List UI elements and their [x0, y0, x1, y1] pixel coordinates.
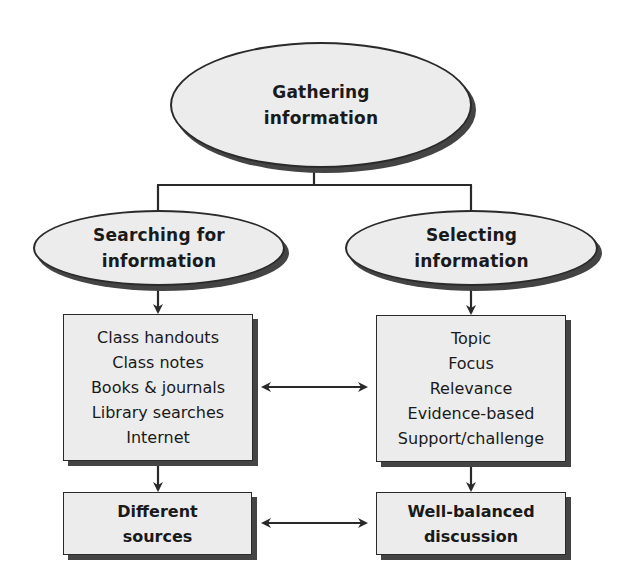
box-label-line-1: Different	[117, 499, 197, 524]
list-item: Library searches	[92, 400, 224, 425]
gathering-information-node: Gathering information	[170, 42, 472, 168]
gathering-information-diagram: Gathering information Searching for info…	[0, 0, 629, 586]
node-label-line-1: Selecting	[426, 222, 517, 248]
list-item: Books & journals	[91, 375, 225, 400]
node-label-line-1: Searching for	[93, 222, 225, 248]
list-item: Internet	[126, 425, 190, 450]
node-label-line-2: information	[414, 248, 529, 274]
different-sources-box: Different sources	[63, 492, 252, 555]
tree-connector	[157, 168, 472, 213]
list-item: Support/challenge	[398, 426, 544, 451]
list-item: Class notes	[112, 350, 204, 375]
node-label-line-2: information	[102, 248, 217, 274]
list-item: Evidence-based	[408, 401, 535, 426]
node-label-line-1: Gathering	[272, 79, 369, 105]
box-label-line-1: Well-balanced	[407, 499, 534, 524]
list-item: Topic	[451, 326, 491, 351]
list-item: Class handouts	[97, 325, 219, 350]
bidirectional-arrows	[263, 387, 366, 523]
node-label-line-2: information	[264, 105, 379, 131]
information-sources-box: Class handouts Class notes Books & journ…	[63, 314, 253, 461]
list-item: Relevance	[430, 376, 513, 401]
selecting-information-node: Selecting information	[345, 210, 598, 286]
well-balanced-discussion-box: Well-balanced discussion	[376, 492, 566, 555]
searching-for-information-node: Searching for information	[33, 210, 285, 286]
box-label-line-2: sources	[123, 524, 193, 549]
box-label-line-2: discussion	[424, 524, 518, 549]
selection-criteria-box: Topic Focus Relevance Evidence-based Sup…	[376, 315, 566, 462]
list-item: Focus	[448, 351, 494, 376]
